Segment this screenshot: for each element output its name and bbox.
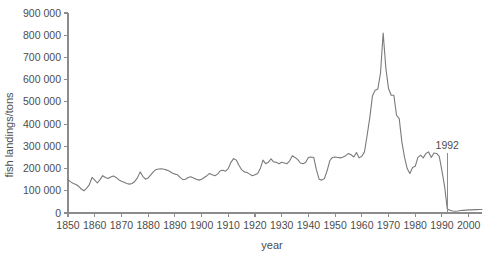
y-tick-label: 0 bbox=[55, 207, 61, 219]
y-tick-label: 600 000 bbox=[23, 73, 61, 85]
y-tick-label: 700 000 bbox=[23, 51, 61, 63]
fish-landings-line-chart: 0100 000200 000300 000400 000500 000600 … bbox=[0, 0, 493, 257]
x-axis-title: year bbox=[261, 239, 283, 251]
x-tick-label: 2000 bbox=[457, 219, 481, 231]
x-tick-label: 1890 bbox=[163, 219, 187, 231]
y-tick-label: 100 000 bbox=[23, 184, 61, 196]
y-tick-label: 800 000 bbox=[23, 29, 61, 41]
y-tick-label: 500 000 bbox=[23, 95, 61, 107]
x-tick-label: 1960 bbox=[350, 219, 374, 231]
x-tick-label: 1940 bbox=[297, 219, 321, 231]
x-tick-label: 1880 bbox=[136, 219, 160, 231]
x-tick-label: 1920 bbox=[243, 219, 267, 231]
y-tick-label: 200 000 bbox=[23, 162, 61, 174]
x-tick-label: 1860 bbox=[83, 219, 107, 231]
x-tick-label: 1950 bbox=[323, 219, 347, 231]
annotation-label: 1992 bbox=[436, 139, 460, 151]
y-tick-label: 400 000 bbox=[23, 118, 61, 130]
x-tick-label: 1850 bbox=[56, 219, 80, 231]
x-tick-label: 1930 bbox=[270, 219, 294, 231]
x-tick-label: 1910 bbox=[217, 219, 241, 231]
y-tick-label: 300 000 bbox=[23, 140, 61, 152]
y-tick-label: 900 000 bbox=[23, 7, 61, 19]
y-axis-title: fish landings/tons bbox=[3, 92, 15, 177]
chart-figure: 0100 000200 000300 000400 000500 000600 … bbox=[0, 0, 493, 257]
x-tick-label: 1870 bbox=[110, 219, 134, 231]
x-tick-label: 1990 bbox=[430, 219, 454, 231]
x-tick-label: 1980 bbox=[404, 219, 428, 231]
x-tick-label: 1970 bbox=[377, 219, 401, 231]
x-tick-label: 1900 bbox=[190, 219, 214, 231]
